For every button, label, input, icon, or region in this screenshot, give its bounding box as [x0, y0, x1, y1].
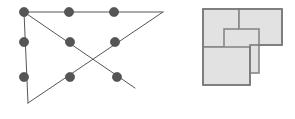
graph-node-top-middle: [64, 7, 73, 16]
graph-node-low-right: [112, 72, 121, 81]
graph-node-top-left: [19, 7, 28, 16]
tile-bottom-left-tile: [203, 47, 250, 85]
graph-node-low-left: [19, 72, 28, 81]
graph-node-mid-left: [19, 37, 28, 46]
graph-node-mid-right: [110, 37, 119, 46]
graph-node-top-right: [109, 7, 118, 16]
graph-node-low-middle: [65, 72, 74, 81]
graph-node-mid-middle: [65, 37, 74, 46]
figure-canvas: [0, 0, 295, 119]
